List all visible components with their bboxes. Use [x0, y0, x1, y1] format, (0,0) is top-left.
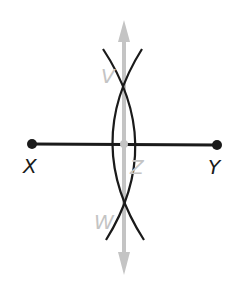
label-x: X — [22, 154, 38, 178]
arrowhead-down-icon — [118, 252, 130, 275]
label-z: Z — [129, 155, 145, 179]
arrowhead-up-icon — [118, 20, 130, 42]
label-w: W — [94, 210, 115, 234]
label-y: Y — [208, 155, 222, 179]
point-z — [120, 140, 128, 148]
point-x — [27, 139, 37, 149]
point-y — [212, 140, 222, 150]
bisector-diagram: X Y V Z W — [0, 0, 243, 285]
label-v: V — [101, 64, 116, 88]
